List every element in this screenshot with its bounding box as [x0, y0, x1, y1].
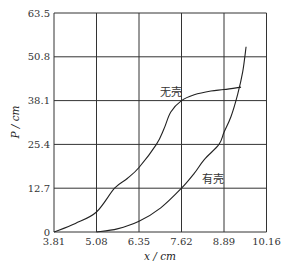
x-tick-label: 8.89 — [213, 236, 235, 247]
curve-无壳 — [54, 87, 241, 232]
y-tick-label: 12.7 — [28, 183, 50, 194]
y-tick-label: 63.5 — [28, 8, 50, 19]
y-axis-label: P / cm — [9, 105, 21, 139]
y-tick-label: 25.4 — [28, 139, 50, 150]
data-curves — [54, 47, 246, 232]
x-axis-ticks: 3.815.086.357.628.8910.16 — [43, 236, 281, 247]
y-axis-ticks: 012.725.438.150.863.5 — [28, 8, 50, 238]
y-tick-label: 38.1 — [28, 95, 50, 106]
x-axis-label: x / cm — [144, 250, 176, 262]
curve-label: 有壳 — [202, 172, 224, 186]
x-tick-label: 7.62 — [170, 236, 192, 247]
grid-lines — [54, 13, 267, 232]
x-tick-label: 5.08 — [85, 236, 107, 247]
chart: 012.725.438.150.863.5 3.815.086.357.628.… — [0, 0, 288, 272]
x-tick-label: 6.35 — [128, 236, 150, 247]
x-tick-label: 3.81 — [43, 236, 65, 247]
x-tick-label: 10.16 — [252, 236, 281, 247]
y-tick-label: 50.8 — [28, 51, 50, 62]
curve-label: 无壳 — [160, 85, 182, 99]
